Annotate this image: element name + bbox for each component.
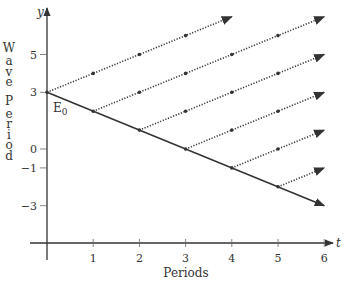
y-axis-title-letter: W (3, 41, 16, 55)
axes (30, 8, 333, 260)
y-tick-label: 3 (30, 86, 37, 99)
diagram: 123456530−1−3 y t Periods E0 WavePeriod (0, 0, 351, 287)
ticks: 123456530−1−3 (21, 49, 328, 266)
y-axis-title-letter: P (5, 94, 13, 108)
y-axis-title-letter: e (5, 75, 12, 89)
x-axis-title: Periods (163, 266, 208, 280)
e0-subscript: 0 (62, 107, 68, 117)
x-tick-label: 4 (228, 252, 235, 265)
marker-branch-1 (230, 53, 234, 57)
x-tick-label: 6 (321, 252, 328, 265)
line-branch-3 (186, 92, 325, 149)
marker-branch-4 (276, 147, 280, 151)
y-tick-label: 0 (30, 143, 37, 156)
marker-branch-0 (91, 72, 95, 76)
marker-branch-1 (184, 72, 188, 76)
x-tick-label: 3 (182, 252, 189, 265)
marker-branch-0 (138, 53, 142, 57)
series-group (45, 17, 324, 206)
y-axis-variable: y (36, 5, 44, 19)
e0-letter: E (53, 101, 62, 115)
y-axis-title-vertical: WavePeriod (3, 41, 16, 163)
marker-branch-3 (276, 109, 280, 113)
marker-branch-1 (276, 34, 280, 38)
x-tick-label: 2 (136, 252, 143, 265)
line-branch-5 (278, 168, 324, 187)
marker-branch-0 (184, 34, 188, 38)
y-tick-label: −3 (21, 200, 37, 213)
line-branch-1 (93, 17, 324, 112)
x-axis-variable: t (336, 236, 341, 250)
y-axis-title-letter: d (5, 149, 13, 163)
y-tick-label: 5 (30, 49, 37, 62)
x-tick-label: 1 (90, 252, 97, 265)
marker-branch-3 (230, 128, 234, 132)
marker-branch-1 (138, 91, 142, 95)
x-tick-label: 5 (275, 252, 282, 265)
marker-branch-2 (184, 109, 188, 113)
marker-branch-2 (230, 91, 234, 95)
y-tick-label: −1 (21, 162, 37, 175)
marker-branch-2 (276, 72, 280, 76)
e0-label: E0 (53, 101, 68, 117)
